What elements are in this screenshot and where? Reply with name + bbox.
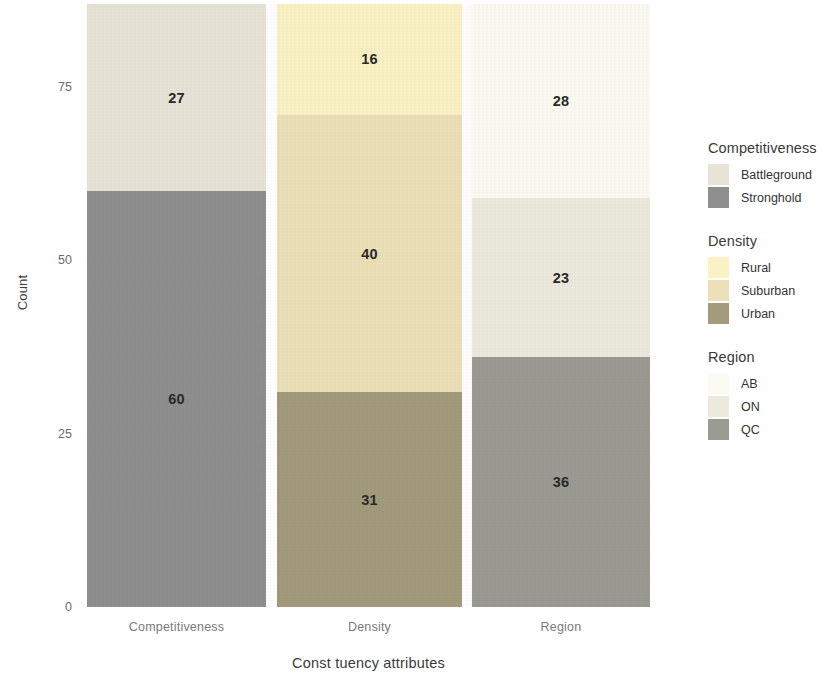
legend-group: CompetitivenessBattlegroundStronghold	[708, 140, 836, 209]
legend: CompetitivenessBattlegroundStrongholdDen…	[708, 140, 836, 465]
bar-value-label: 36	[553, 474, 570, 490]
bar-segment[interactable]: 28	[472, 4, 650, 198]
x-tick-label: Density	[270, 620, 470, 634]
bar-value-label: 28	[553, 93, 570, 109]
y-tick-label: 75	[32, 80, 72, 94]
bar-segment[interactable]: 40	[277, 115, 462, 392]
x-tick-label: Region	[461, 620, 661, 634]
bar-value-label: 27	[168, 90, 185, 106]
bar-stack: 164031	[277, 4, 462, 607]
legend-group: RegionABONQC	[708, 349, 836, 441]
legend-title: Region	[708, 349, 836, 365]
legend-label: ON	[741, 400, 760, 414]
legend-item[interactable]: Urban	[708, 302, 836, 325]
bar-stack: 282336	[472, 4, 650, 607]
legend-item[interactable]: ON	[708, 395, 836, 418]
legend-label: Urban	[741, 307, 775, 321]
bar-value-label: 40	[361, 246, 378, 262]
legend-swatch-icon	[708, 187, 729, 208]
bar-column: 164031	[277, 4, 462, 607]
legend-label: Stronghold	[741, 191, 801, 205]
legend-group: DensityRuralSuburbanUrban	[708, 233, 836, 325]
y-tick-label: 25	[32, 427, 72, 441]
bar-segment[interactable]: 27	[87, 4, 266, 191]
legend-item[interactable]: Rural	[708, 256, 836, 279]
legend-swatch-icon	[708, 257, 729, 278]
legend-swatch-icon	[708, 419, 729, 440]
legend-swatch-icon	[708, 303, 729, 324]
bar-stack: 2760	[87, 4, 266, 607]
bar-segment[interactable]: 60	[87, 191, 266, 607]
y-tick-label: 0	[32, 600, 72, 614]
bar-column: 2760	[87, 4, 266, 607]
legend-label: Rural	[741, 261, 771, 275]
legend-item[interactable]: Battleground	[708, 163, 836, 186]
legend-label: Suburban	[741, 284, 795, 298]
x-axis-title: Const tuency attributes	[87, 655, 650, 671]
bar-segment[interactable]: 16	[277, 4, 462, 115]
bar-column: 282336	[472, 4, 650, 607]
legend-item[interactable]: Stronghold	[708, 186, 836, 209]
stacked-bar-chart-figure: Count 0255075 2760164031282336 Competiti…	[0, 0, 836, 686]
legend-label: QC	[741, 423, 760, 437]
x-tick-label: Competitiveness	[77, 620, 277, 634]
legend-title: Competitiveness	[708, 140, 836, 156]
bar-value-label: 16	[361, 51, 378, 67]
legend-item[interactable]: QC	[708, 418, 836, 441]
bar-value-label: 23	[553, 270, 570, 286]
legend-swatch-icon	[708, 396, 729, 417]
bar-segment[interactable]: 36	[472, 357, 650, 607]
y-axis-ticks: 0255075	[20, 0, 72, 686]
legend-label: Battleground	[741, 168, 812, 182]
legend-title: Density	[708, 233, 836, 249]
bar-value-label: 60	[168, 391, 185, 407]
legend-swatch-icon	[708, 164, 729, 185]
bar-value-label: 31	[361, 492, 378, 508]
legend-item[interactable]: Suburban	[708, 279, 836, 302]
legend-item[interactable]: AB	[708, 372, 836, 395]
bar-segment[interactable]: 23	[472, 198, 650, 357]
legend-swatch-icon	[708, 280, 729, 301]
bar-segment[interactable]: 31	[277, 392, 462, 607]
legend-label: AB	[741, 377, 758, 391]
plot-panel: 2760164031282336	[87, 4, 650, 607]
y-tick-label: 50	[32, 253, 72, 267]
legend-swatch-icon	[708, 373, 729, 394]
